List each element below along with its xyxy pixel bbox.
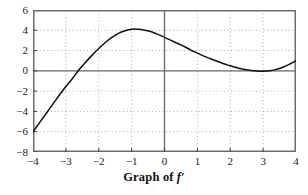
y-tick-label: 2 (6, 45, 28, 56)
y-tick-label: −2 (6, 86, 28, 97)
x-tick-label: −3 (56, 156, 76, 167)
x-tick-label: 1 (187, 156, 207, 167)
y-tick-label: 4 (6, 25, 28, 36)
x-tick-label: 2 (220, 156, 240, 167)
x-tick-label: 0 (155, 156, 175, 167)
x-tick-label: −2 (89, 156, 109, 167)
graph-figure: −8−6−4−20246 −4−3−2−101234 Graph off′ (0, 0, 308, 195)
y-tick-label: −4 (6, 106, 28, 117)
plot-svg (33, 10, 296, 152)
figure-caption: Graph off′ (0, 170, 308, 185)
x-tick-label: −1 (122, 156, 142, 167)
x-tick-label: 3 (253, 156, 273, 167)
y-tick-label: 6 (6, 5, 28, 16)
caption-text: Graph of (123, 170, 174, 184)
plot-area: −8−6−4−20246 −4−3−2−101234 (33, 10, 296, 152)
x-tick-label: −4 (23, 156, 43, 167)
caption-symbol: f′ (174, 170, 185, 184)
y-tick-label: 0 (6, 65, 28, 76)
x-tick-label: 4 (286, 156, 306, 167)
y-tick-label: −6 (6, 126, 28, 137)
